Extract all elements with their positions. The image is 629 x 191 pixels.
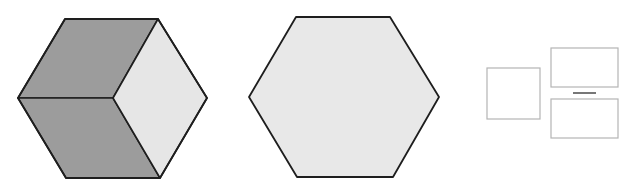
bottom-rectangle [551, 99, 618, 138]
cube-hexagon [18, 19, 207, 178]
top-rectangle [551, 48, 618, 87]
plain-hexagon [249, 17, 439, 177]
square-box [487, 68, 540, 119]
diagram-canvas [0, 0, 629, 191]
